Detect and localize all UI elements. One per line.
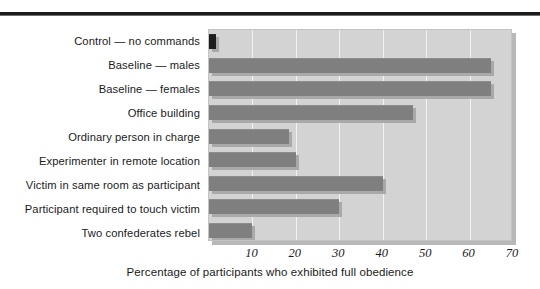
category-label: Ordinary person in charge (68, 125, 200, 149)
x-axis-tick: 20 (289, 246, 302, 261)
category-label: Baseline — females (99, 77, 200, 101)
x-axis-tick: 60 (462, 246, 475, 261)
bar (209, 58, 491, 73)
bar (209, 199, 339, 214)
x-axis-tick: 40 (375, 246, 388, 261)
x-axis-tick: 30 (332, 246, 345, 261)
obedience-bar-chart-figure: Control — no commands Baseline — males B… (0, 0, 540, 289)
bar (209, 34, 216, 49)
bar (209, 81, 491, 96)
x-axis-tick-labels: 10203040506070 (208, 246, 512, 264)
x-axis-tick: 10 (245, 246, 258, 261)
header-rule-secondary (0, 15, 540, 16)
bar (209, 223, 252, 238)
x-axis-title: Percentage of participants who exhibited… (0, 266, 540, 278)
bar (209, 129, 289, 144)
category-label: Baseline — males (108, 53, 200, 77)
category-axis-labels: Control — no commands Baseline — males B… (8, 29, 204, 245)
category-label: Office building (128, 101, 200, 125)
x-axis-tick: 70 (506, 246, 519, 261)
category-label: Two confederates rebel (82, 221, 201, 245)
category-label: Experimenter in remote location (39, 149, 200, 173)
category-label: Control — no commands (74, 29, 200, 53)
bar (209, 105, 413, 120)
category-label: Victim in same room as participant (26, 173, 200, 197)
category-label: Participant required to touch victim (25, 197, 200, 221)
bar (209, 176, 383, 191)
plot-area (208, 29, 512, 241)
bar (209, 152, 296, 167)
x-axis-tick: 50 (419, 246, 432, 261)
